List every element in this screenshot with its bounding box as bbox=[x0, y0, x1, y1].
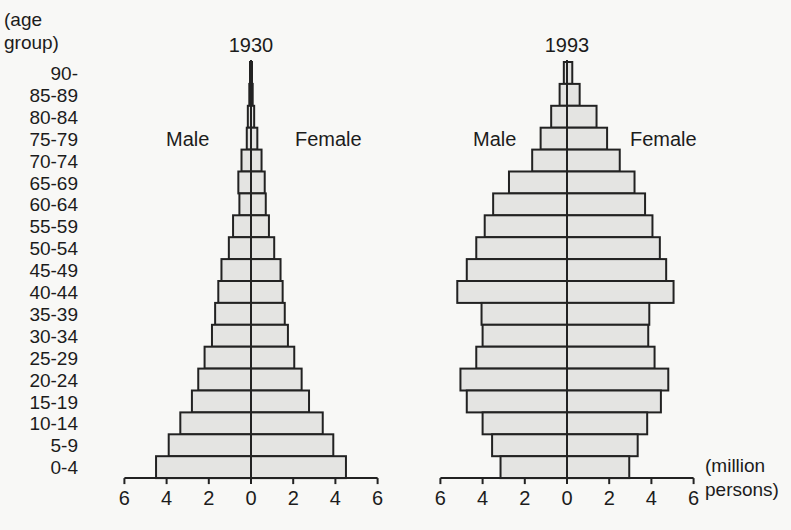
age-group-label: 80-84 bbox=[29, 107, 78, 128]
bar-male-85-89 bbox=[560, 84, 567, 106]
bar-male-10-14 bbox=[483, 412, 567, 434]
bar-female-50-54 bbox=[567, 237, 660, 259]
age-group-label: 5-9 bbox=[51, 435, 78, 456]
bar-male-20-24 bbox=[198, 369, 251, 391]
bar-female-20-24 bbox=[567, 369, 668, 391]
bar-male-25-29 bbox=[476, 347, 567, 369]
bar-female-15-19 bbox=[251, 391, 309, 413]
x-tick-label: 2 bbox=[288, 487, 299, 509]
bar-male-10-14 bbox=[180, 412, 251, 434]
bar-female-60-64 bbox=[567, 193, 645, 215]
x-tick-label: 4 bbox=[161, 487, 172, 509]
bar-female-80-84 bbox=[567, 106, 597, 128]
bar-male-45-49 bbox=[467, 259, 567, 281]
x-tick-label: 2 bbox=[604, 487, 615, 509]
age-group-label: 25-29 bbox=[29, 348, 78, 369]
x-tick-label: 6 bbox=[435, 487, 446, 509]
bar-female-65-69 bbox=[251, 172, 265, 194]
bar-female-0-4 bbox=[567, 456, 629, 478]
male-label-1993: Male bbox=[473, 128, 516, 150]
x-tick-label: 2 bbox=[519, 487, 530, 509]
bar-male-0-4 bbox=[501, 456, 567, 478]
bar-female-25-29 bbox=[251, 347, 294, 369]
age-group-labels: 90-85-8980-8475-7970-7465-6960-6455-5950… bbox=[29, 63, 78, 478]
bar-male-45-49 bbox=[221, 259, 251, 281]
age-group-label: 45-49 bbox=[29, 260, 78, 281]
x-tick-label: 0 bbox=[245, 487, 256, 509]
age-group-label: 20-24 bbox=[29, 370, 78, 391]
x-axis-1930: 6420246 bbox=[119, 478, 383, 509]
age-group-label: 15-19 bbox=[29, 392, 78, 413]
age-group-label: 90- bbox=[51, 63, 78, 84]
bar-male-80-84 bbox=[551, 106, 567, 128]
bar-male-60-64 bbox=[493, 193, 567, 215]
bar-female-50-54 bbox=[251, 237, 274, 259]
bar-female-40-44 bbox=[251, 281, 283, 303]
bar-female-10-14 bbox=[567, 412, 647, 434]
female-label-1993: Female bbox=[630, 128, 697, 150]
bar-male-55-59 bbox=[485, 215, 567, 237]
bar-female-70-74 bbox=[567, 150, 620, 172]
bar-male-40-44 bbox=[457, 281, 567, 303]
male-label-1930: Male bbox=[166, 128, 209, 150]
bar-male-75-79 bbox=[541, 128, 567, 150]
bar-female-85-89 bbox=[567, 84, 580, 106]
bar-female-15-19 bbox=[567, 391, 661, 413]
x-tick-label: 6 bbox=[119, 487, 130, 509]
age-group-label: 50-54 bbox=[29, 238, 78, 259]
bar-male-50-54 bbox=[476, 237, 567, 259]
x-tick-label: 4 bbox=[330, 487, 341, 509]
bar-male-60-64 bbox=[239, 193, 251, 215]
age-group-label: 70-74 bbox=[29, 151, 78, 172]
bar-male-65-69 bbox=[509, 172, 567, 194]
age-group-label: 35-39 bbox=[29, 304, 78, 325]
x-tick-label: 6 bbox=[372, 487, 383, 509]
bar-male-70-74 bbox=[242, 150, 251, 172]
age-group-label: 65-69 bbox=[29, 173, 78, 194]
age-axis-title-line2: group) bbox=[4, 32, 59, 53]
x-tick-label: 2 bbox=[203, 487, 214, 509]
bar-male-5-9 bbox=[492, 434, 567, 456]
bar-female-5-9 bbox=[251, 434, 333, 456]
bar-female-35-39 bbox=[251, 303, 285, 325]
bar-female-45-49 bbox=[251, 259, 281, 281]
bar-female-60-64 bbox=[251, 193, 266, 215]
bar-female-30-34 bbox=[251, 325, 288, 347]
bar-female-25-29 bbox=[567, 347, 655, 369]
age-group-label: 85-89 bbox=[29, 85, 78, 106]
bar-male-35-39 bbox=[482, 303, 567, 325]
bar-female-20-24 bbox=[251, 369, 302, 391]
bar-female-35-39 bbox=[567, 303, 649, 325]
bar-male-0-4 bbox=[156, 456, 251, 478]
bar-female-5-9 bbox=[567, 434, 638, 456]
bar-female-65-69 bbox=[567, 172, 635, 194]
age-group-label: 10-14 bbox=[29, 413, 78, 434]
bar-female-75-79 bbox=[567, 128, 607, 150]
chart-title-1930: 1930 bbox=[229, 34, 274, 56]
age-group-label: 0-4 bbox=[51, 457, 79, 478]
unit-label: (million persons) bbox=[705, 455, 779, 500]
bar-female-55-59 bbox=[567, 215, 652, 237]
bar-female-0-4 bbox=[251, 456, 346, 478]
unit-label-line2: persons) bbox=[705, 479, 779, 500]
x-tick-label: 4 bbox=[646, 487, 657, 509]
bar-female-70-74 bbox=[251, 150, 262, 172]
pyramid-1930: 1930 Male Female 6420246 bbox=[119, 34, 383, 509]
bar-male-55-59 bbox=[233, 215, 251, 237]
bar-female-40-44 bbox=[567, 281, 674, 303]
age-axis-title: (age group) bbox=[4, 9, 59, 53]
age-group-label: 75-79 bbox=[29, 129, 78, 150]
population-pyramid-figure: (age group) 90-85-8980-8475-7970-7465-69… bbox=[0, 0, 791, 530]
x-axis-1993: 6420246 bbox=[435, 478, 699, 509]
unit-label-line1: (million bbox=[705, 455, 765, 476]
pyramid-1993: 1993 Male Female 6420246 bbox=[435, 34, 699, 509]
bar-male-35-39 bbox=[215, 303, 251, 325]
age-group-label: 55-59 bbox=[29, 216, 78, 237]
bar-male-40-44 bbox=[218, 281, 251, 303]
bar-male-20-24 bbox=[460, 369, 567, 391]
x-tick-label: 4 bbox=[477, 487, 488, 509]
bar-female-55-59 bbox=[251, 215, 269, 237]
bar-female-10-14 bbox=[251, 412, 323, 434]
bar-female-45-49 bbox=[567, 259, 666, 281]
bar-male-70-74 bbox=[532, 150, 567, 172]
